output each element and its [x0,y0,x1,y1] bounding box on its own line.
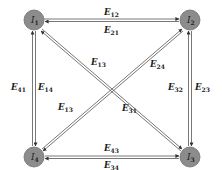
edge-label-e34: E34 [103,160,119,170]
node-i1: I1 [24,10,44,30]
node-i3: I3 [180,147,200,167]
edge-label-e32: E32 [167,82,183,93]
edge-label-e13-bottom: E13 [57,102,73,113]
edge-i4-i3 [45,156,179,159]
edge-label-e12: E12 [103,7,119,18]
edge-label-e41: E41 [10,82,26,93]
edge-label-e31: E31 [121,103,137,114]
edge-label-e43: E43 [103,143,119,154]
edge-i1-i2 [44,19,179,22]
node-i2: I2 [180,10,200,30]
graph-diagram: E12 E21 E43 E34 E41 E14 E32 E23 E13 E31 … [0,0,222,170]
edge-i1-i4 [33,31,36,146]
node-i4: I4 [24,147,44,167]
edge-label-e21: E21 [103,25,119,36]
edge-i2-i3 [189,31,192,146]
edge-label-e13-top: E13 [90,57,106,68]
edge-label-e14: E14 [37,82,53,93]
edge-label-e23: E23 [194,82,210,93]
edge-label-e24: E24 [149,59,165,70]
